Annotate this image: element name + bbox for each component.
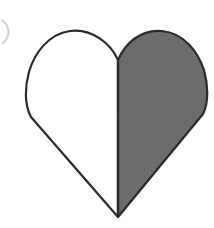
clipped-parenthesis-mark (2, 20, 9, 43)
image-canvas (0, 0, 214, 228)
heart-left-half-fill (26, 31, 118, 217)
heart-figure (0, 0, 214, 228)
